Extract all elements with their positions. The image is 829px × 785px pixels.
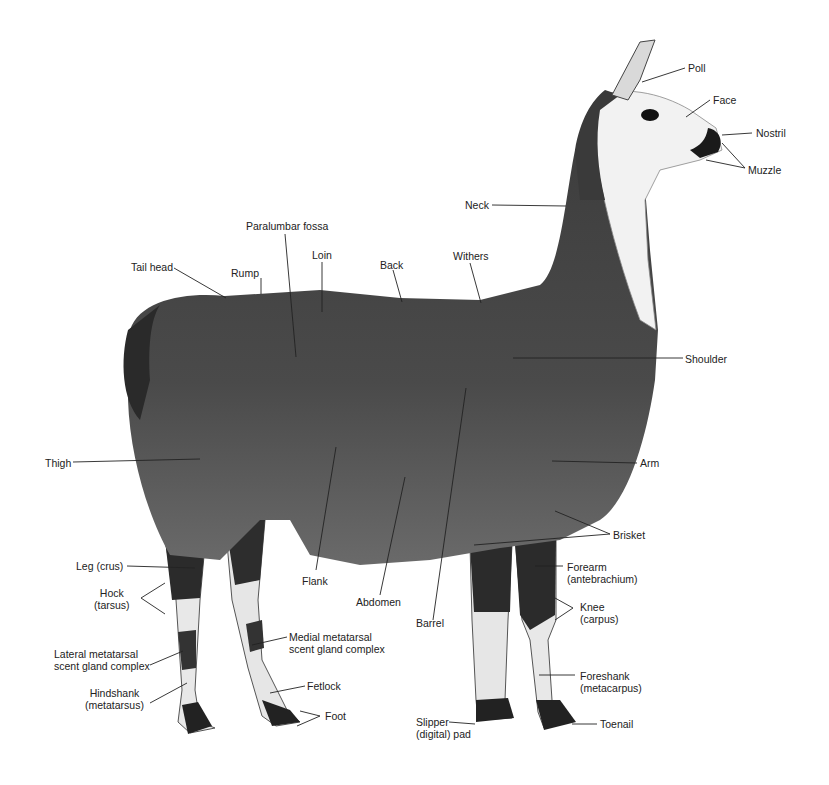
llama-eye [641, 109, 659, 121]
label-face: Face [713, 94, 736, 106]
llama-anatomy-diagram: Poll Face Nostril Muzzle Neck Paralumbar… [0, 0, 829, 785]
label-thigh: Thigh [45, 457, 71, 469]
label-medial-metatarsal: Medial metatarsal scent gland complex [289, 631, 385, 655]
front-legs [470, 540, 576, 730]
llama-ears [612, 40, 655, 100]
label-flank: Flank [302, 575, 328, 587]
label-knee: Knee (carpus) [580, 601, 619, 625]
label-loin: Loin [312, 249, 332, 261]
label-withers: Withers [453, 250, 489, 262]
label-fetlock: Fetlock [307, 680, 341, 692]
label-lateral-metatarsal: Lateral metatarsal scent gland complex [54, 648, 150, 672]
label-nostril: Nostril [756, 127, 786, 139]
label-brisket: Brisket [613, 529, 645, 541]
label-rump: Rump [231, 267, 259, 279]
label-paralumbar-fossa: Paralumbar fossa [246, 220, 328, 232]
label-hock: Hock (tarsus) [94, 587, 130, 611]
label-hindshank: Hindshank (metatarsus) [85, 687, 144, 711]
label-toenail: Toenail [600, 718, 633, 730]
label-back: Back [380, 259, 403, 271]
label-shoulder: Shoulder [685, 353, 727, 365]
label-arm: Arm [640, 457, 659, 469]
label-poll: Poll [688, 62, 706, 74]
label-tail-head: Tail head [131, 261, 173, 273]
label-leg-crus: Leg (crus) [76, 560, 123, 572]
label-neck: Neck [465, 199, 489, 211]
label-barrel: Barrel [416, 617, 444, 629]
label-slipper-pad: Slipper (digital) pad [416, 716, 471, 740]
label-foreshank: Foreshank (metacarpus) [580, 670, 642, 694]
label-foot: Foot [325, 710, 346, 722]
label-abdomen: Abdomen [356, 596, 401, 608]
label-forearm: Forearm (antebrachium) [567, 561, 638, 585]
label-muzzle: Muzzle [748, 164, 781, 176]
